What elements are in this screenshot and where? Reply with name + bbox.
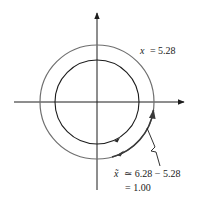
reference-angle-expression: ≃ 6.28 − 5.28 — [124, 168, 181, 179]
reference-angle-var: x̃ — [113, 168, 119, 179]
reference-angle-result: = 1.00 — [125, 182, 151, 193]
leader-line — [147, 128, 160, 166]
angle-label: x = 5.28 — [139, 45, 176, 56]
angle-diagram: x = 5.28 x̃ ≃ 6.28 − 5.28 = 1.00 — [0, 0, 203, 203]
reference-arc — [112, 110, 154, 157]
angle-value: = 5.28 — [150, 45, 176, 56]
reference-angle-label: x̃ ≃ 6.28 − 5.28 — [113, 168, 180, 179]
angle-var: x — [139, 45, 145, 56]
